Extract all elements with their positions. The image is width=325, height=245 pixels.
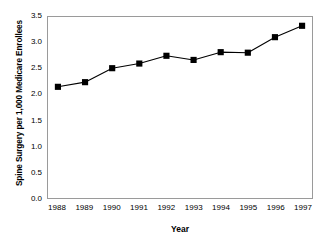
- data-point: [163, 53, 169, 59]
- x-tick-label: 1996: [267, 203, 285, 213]
- x-tick-label: 1994: [212, 203, 230, 213]
- data-point: [218, 49, 224, 55]
- y-tick-label: 0.5: [22, 169, 42, 177]
- x-tick-label: 1995: [239, 203, 257, 213]
- y-tick-label: 3.5: [22, 12, 42, 20]
- y-tick-label: 2.5: [22, 64, 42, 72]
- y-axis-tick-labels: 0.00.51.01.52.02.53.03.5: [22, 0, 42, 245]
- data-point: [299, 23, 305, 29]
- plot-area: [47, 16, 313, 199]
- data-markers: [55, 23, 305, 90]
- y-tick-label: 0.0: [22, 195, 42, 203]
- chart-figure: Spine Surgery per 1,000 Medicare Enrolle…: [0, 0, 325, 245]
- x-tick-label: 1997: [294, 203, 312, 213]
- x-tick-label: 1993: [185, 203, 203, 213]
- x-tick-label: 1989: [75, 203, 93, 213]
- x-tick-label: 1992: [157, 203, 175, 213]
- y-tick-label: 3.0: [22, 38, 42, 46]
- data-point: [82, 79, 88, 85]
- data-point: [109, 65, 115, 71]
- y-tick-label: 1.5: [22, 117, 42, 125]
- y-tick-label: 2.0: [22, 90, 42, 98]
- data-point: [272, 34, 278, 40]
- x-axis-title: Year: [47, 224, 313, 234]
- data-point: [245, 50, 251, 56]
- data-line: [58, 26, 302, 87]
- data-point: [190, 57, 196, 63]
- data-point: [55, 84, 61, 90]
- y-tick-label: 1.0: [22, 143, 42, 151]
- x-tick-label: 1988: [48, 203, 66, 213]
- x-axis-tick-labels: 1988198919901991199219931994199519961997: [47, 203, 313, 215]
- x-tick-label: 1990: [103, 203, 121, 213]
- x-tick-label: 1991: [130, 203, 148, 213]
- line-chart-svg: [48, 17, 312, 198]
- data-point: [136, 60, 142, 66]
